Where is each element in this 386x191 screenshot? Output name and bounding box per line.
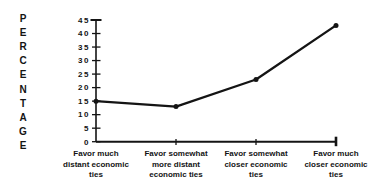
y-tick-label: 35 <box>78 43 90 52</box>
y-axis-title-letter: R <box>19 41 27 52</box>
x-category-label: Favor muchcloser economicties <box>304 149 368 179</box>
y-tick-label: 25 <box>78 70 90 79</box>
chart-plot: 051015202530354045Favor muchdistant econ… <box>0 0 386 191</box>
y-axis-title-letter: G <box>19 126 27 137</box>
y-tick-label: 10 <box>78 110 90 119</box>
data-point-marker <box>94 99 99 104</box>
x-category-label: Favor somewhatcloser economicties <box>224 149 288 179</box>
y-tick-label: 5 <box>84 124 90 133</box>
y-axis-title-letter: E <box>20 27 27 38</box>
y-axis-title-letter: P <box>20 13 27 24</box>
y-axis-title-letter: N <box>19 84 26 95</box>
data-point-marker <box>334 23 339 28</box>
y-axis-title-letter: E <box>20 140 27 151</box>
y-axis-title-letter: A <box>19 112 26 123</box>
y-axis-title-letter: T <box>20 98 26 109</box>
line-chart-figure: 051015202530354045Favor muchdistant econ… <box>0 0 386 191</box>
data-line <box>96 25 336 106</box>
y-tick-label: 0 <box>84 138 90 147</box>
y-tick-label: 15 <box>78 97 90 106</box>
data-point-marker <box>174 104 179 109</box>
x-category-label: Favor somewhatmore distanteconomic ties <box>144 149 207 179</box>
y-axis-title-letter: E <box>20 69 27 80</box>
y-tick-label: 20 <box>78 83 90 92</box>
y-tick-label: 40 <box>78 29 90 38</box>
y-tick-label: 30 <box>78 56 90 65</box>
y-tick-label: 45 <box>78 16 90 25</box>
y-axis-title-letter: C <box>19 55 26 66</box>
x-category-label: Favor muchdistant economicties <box>63 149 129 179</box>
data-point-marker <box>254 77 259 82</box>
